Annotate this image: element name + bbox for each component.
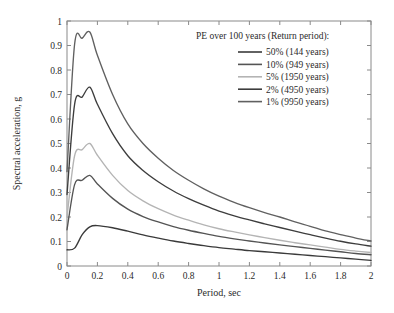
x-tick-label: 1.4 <box>274 271 286 281</box>
y-tick-label: 0.3 <box>50 188 62 198</box>
x-tick-label: 0.4 <box>122 271 134 281</box>
y-tick-label: 0.5 <box>50 139 62 149</box>
y-tick-label: 0.8 <box>50 66 62 76</box>
legend-label-5: 1% (9950 years) <box>266 97 329 108</box>
curve-2-4950-years <box>67 87 371 246</box>
x-tick-label: 1.2 <box>243 271 255 281</box>
x-axis-title: Period, sec <box>197 287 241 298</box>
y-tick-label: 0.6 <box>50 115 62 125</box>
y-tick-label: 1 <box>57 17 62 27</box>
x-tick-label: 1.8 <box>335 271 347 281</box>
y-tick-label: 0.9 <box>50 41 62 51</box>
legend-label-3: 5% (1950 years) <box>266 72 329 83</box>
y-tick-label: 0.7 <box>50 90 62 100</box>
x-tick-label: 1.6 <box>304 271 316 281</box>
x-tick-label: 0.6 <box>152 271 164 281</box>
y-tick-label: 0.2 <box>50 213 62 223</box>
x-tick-label: 0.2 <box>91 271 103 281</box>
chart-svg: 00.20.40.60.811.21.41.61.8200.10.20.30.4… <box>0 0 394 313</box>
y-tick-label: 0 <box>57 262 62 272</box>
y-axis-title: Spectral acceleration, g <box>11 97 22 191</box>
x-tick-label: 0.8 <box>183 271 195 281</box>
curve-10-949-years <box>67 175 371 254</box>
legend-label-2: 10% (949 years) <box>266 60 329 71</box>
x-tick-label: 1 <box>217 271 222 281</box>
legend-label-4: 2% (4950 years) <box>266 85 329 96</box>
legend-label-1: 50% (144 years) <box>266 47 329 58</box>
spectral-acceleration-chart: 00.20.40.60.811.21.41.61.8200.10.20.30.4… <box>0 0 394 313</box>
y-tick-label: 0.4 <box>50 164 62 174</box>
y-tick-label: 0.1 <box>50 237 62 247</box>
x-tick-label: 2 <box>369 271 374 281</box>
x-tick-label: 0 <box>65 271 70 281</box>
legend-title: PE over 100 years (Return period): <box>196 31 329 42</box>
